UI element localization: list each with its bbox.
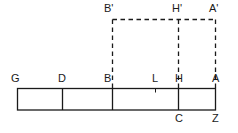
- label-H: H: [175, 73, 183, 84]
- label-B: B: [104, 73, 111, 84]
- label-H-prime: H': [172, 3, 182, 14]
- geometry-figure: B' H' A' G D B L H A C Z: [0, 0, 238, 133]
- label-B-prime: B': [104, 3, 113, 14]
- label-L: L: [152, 73, 158, 84]
- label-G: G: [11, 73, 20, 84]
- label-A-prime: A': [209, 3, 218, 14]
- label-C: C: [175, 113, 183, 124]
- label-A: A: [212, 73, 219, 84]
- label-D: D: [58, 73, 66, 84]
- label-Z: Z: [212, 113, 219, 124]
- solid-rectangle: [18, 89, 216, 111]
- figure-canvas: [0, 0, 238, 133]
